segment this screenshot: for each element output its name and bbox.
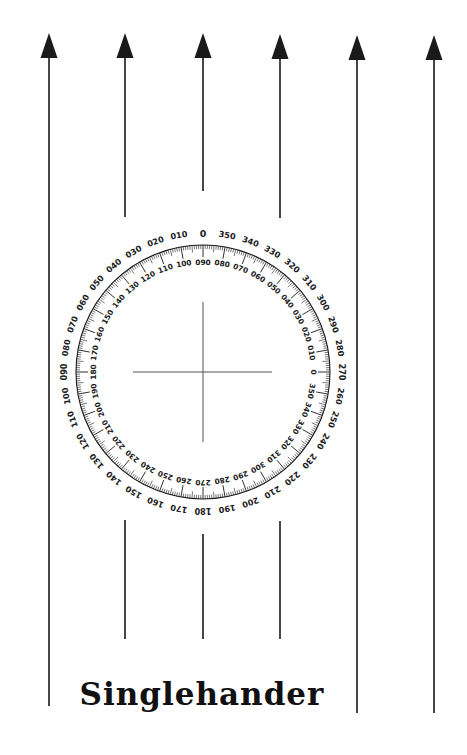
outer-degree-label: 050: [87, 273, 106, 293]
arrowhead-icon: [426, 35, 443, 60]
outer-degree-label: 060: [74, 292, 91, 312]
north-arrow-1: [41, 33, 58, 706]
inner-degree-label: 160: [93, 326, 107, 344]
inner-degree-label: 050: [265, 279, 283, 296]
arrowhead-icon: [272, 34, 289, 59]
inner-degree-label: 280: [214, 475, 231, 487]
outer-degree-label: 250: [326, 410, 341, 430]
diagram-title: Singlehander: [0, 676, 404, 712]
outer-degree-label: 130: [87, 451, 106, 471]
outer-degree-label: 210: [262, 484, 282, 501]
outer-degree-label: 230: [300, 452, 319, 472]
inner-degree-label: 140: [110, 292, 127, 310]
outer-degree-label: 0: [200, 228, 207, 239]
inner-degree-label: 290: [232, 469, 250, 483]
outer-degree-label: 190: [218, 502, 237, 515]
outer-degree-label: 090: [59, 363, 69, 380]
inner-degree-label: 330: [291, 418, 307, 436]
north-arrows: [41, 33, 443, 713]
arrowhead-icon: [349, 35, 366, 60]
outer-degree-label: 180: [194, 506, 211, 516]
inner-degree-label: 060: [249, 269, 267, 285]
arrowhead-icon: [195, 33, 212, 58]
outer-degree-label: 240: [315, 432, 332, 452]
outer-degree-label: 260: [333, 387, 346, 406]
inner-degree-label: 010: [306, 345, 318, 362]
inner-degree-label: 350: [306, 383, 318, 400]
inner-degree-label: 250: [157, 469, 175, 483]
north-arrow-4: [272, 34, 289, 639]
north-arrow-5: [349, 35, 366, 713]
inner-degree-label: 120: [139, 269, 157, 285]
outer-degree-label: 030: [124, 243, 144, 260]
outer-degree-label: 340: [241, 234, 261, 249]
outer-degree-label: 290: [326, 315, 341, 335]
outer-degree-label: 040: [104, 256, 124, 275]
inner-degree-label: 130: [123, 279, 141, 296]
inner-degree-label: 260: [176, 475, 193, 487]
outer-degree-label: 080: [60, 338, 73, 357]
inner-degree-label: 020: [300, 326, 314, 344]
inner-degree-label: 180: [89, 364, 98, 379]
outer-degree-label: 010: [170, 229, 189, 242]
inner-degree-label: 190: [89, 383, 101, 400]
outer-degree-label: 280: [333, 339, 346, 358]
inner-degree-label: 210: [100, 418, 116, 436]
north-arrow-2: [117, 33, 134, 639]
north-arrow-6: [426, 35, 443, 713]
inner-degree-label: 220: [110, 434, 127, 452]
inner-degree-label: 300: [249, 460, 267, 476]
compass-rose: 0010020030040050060070080090100110120130…: [59, 228, 347, 517]
inner-degree-label: 340: [300, 401, 314, 419]
inner-degree-label: 270: [195, 478, 210, 487]
outer-degree-label: 200: [241, 495, 261, 510]
inner-degree-label: 170: [89, 345, 101, 362]
outer-degree-label: 270: [337, 363, 347, 380]
center-crosshair: [133, 302, 272, 442]
outer-degree-label: 120: [74, 431, 91, 451]
inner-degree-label: 090: [195, 258, 210, 267]
inner-degree-label: 310: [265, 448, 283, 465]
outer-degree-label: 310: [300, 273, 319, 293]
outer-degree-label: 100: [60, 387, 73, 406]
singlehander-compass-diagram: 0010020030040050060070080090100110120130…: [0, 0, 467, 755]
outer-degree-label: 140: [104, 469, 124, 488]
inner-degree-label: 040: [279, 292, 296, 310]
inner-degree-label: 0: [309, 369, 318, 374]
inner-degree-label: 230: [123, 448, 141, 465]
outer-degree-label: 150: [123, 484, 143, 501]
outer-degree-label: 170: [169, 502, 188, 515]
outer-degree-label: 330: [263, 243, 283, 260]
outer-degree-label: 320: [283, 256, 303, 275]
inner-degree-label: 030: [291, 308, 307, 326]
outer-degree-label: 160: [145, 495, 165, 510]
outer-degree-label: 350: [218, 229, 237, 242]
arrowhead-icon: [117, 33, 134, 58]
inner-degree-label: 070: [232, 262, 250, 276]
outer-degree-label: 020: [146, 234, 166, 249]
inner-degree-label: 200: [93, 401, 107, 419]
outer-degree-label: 110: [65, 410, 80, 430]
inner-degree-label: 150: [100, 308, 116, 326]
inner-degree-label: 080: [214, 258, 231, 270]
inner-degree-label: 240: [139, 460, 157, 476]
inner-degree-label: 100: [176, 258, 193, 270]
outer-degree-label: 070: [65, 314, 80, 334]
outer-degree-label: 220: [282, 469, 302, 488]
inner-degree-label: 110: [157, 262, 175, 276]
inner-degree-label: 320: [279, 434, 296, 452]
outer-degree-label: 300: [315, 293, 332, 313]
arrowhead-icon: [41, 33, 58, 58]
